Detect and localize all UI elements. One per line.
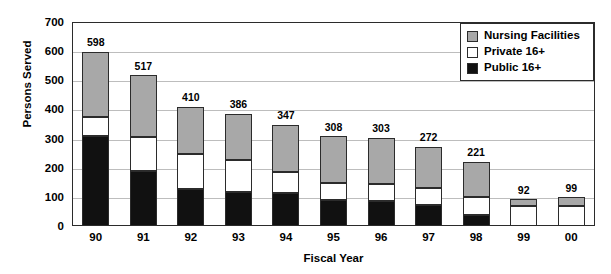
segment-nursing[interactable] — [272, 125, 299, 172]
x-tick-label: 94 — [280, 232, 293, 244]
y-tick-label: 700 — [8, 17, 64, 29]
legend-item[interactable]: Public 16+ — [467, 60, 588, 76]
bar-total-label: 410 — [182, 92, 200, 103]
legend-swatch-private-icon — [467, 47, 478, 58]
segment-public[interactable] — [463, 215, 490, 226]
segment-private[interactable] — [558, 206, 585, 226]
segment-public[interactable] — [368, 201, 395, 226]
bar-group[interactable]: 347 — [272, 22, 299, 226]
segment-private[interactable] — [368, 184, 395, 201]
segment-public[interactable] — [415, 205, 442, 226]
bar-group[interactable]: 303 — [368, 22, 395, 226]
segment-public[interactable] — [130, 171, 157, 226]
x-tick-label: 93 — [232, 232, 245, 244]
segment-nursing[interactable] — [177, 107, 204, 155]
segment-private[interactable] — [177, 154, 204, 189]
segment-nursing[interactable] — [320, 136, 347, 183]
y-tick-label: 400 — [8, 104, 64, 116]
y-tick-label: 600 — [8, 46, 64, 58]
bar-group[interactable]: 272 — [415, 22, 442, 226]
x-tick-label: 95 — [327, 232, 340, 244]
x-tick-label: 90 — [89, 232, 102, 244]
segment-private[interactable] — [272, 172, 299, 193]
segment-public[interactable] — [225, 192, 252, 226]
chart-legend: Nursing FacilitiesPrivate 16+Public 16+ — [460, 23, 594, 81]
bar-group[interactable]: 308 — [320, 22, 347, 226]
segment-private[interactable] — [463, 197, 490, 214]
legend-label: Nursing Facilities — [484, 30, 580, 42]
bar-group[interactable]: 410 — [177, 22, 204, 226]
x-tick-label: 97 — [422, 232, 435, 244]
segment-nursing[interactable] — [510, 199, 537, 205]
bar-total-label: 99 — [565, 183, 577, 194]
bar-total-label: 272 — [420, 132, 438, 143]
legend-label: Public 16+ — [484, 62, 541, 74]
legend-label: Private 16+ — [484, 46, 545, 58]
segment-private[interactable] — [82, 117, 109, 135]
legend-item[interactable]: Nursing Facilities — [467, 28, 588, 44]
segment-private[interactable] — [510, 206, 537, 226]
bar-total-label: 347 — [277, 110, 295, 121]
segment-private[interactable] — [320, 183, 347, 200]
legend-swatch-public-icon — [467, 63, 478, 74]
chart-title — [0, 0, 611, 1]
y-tick-label: 100 — [8, 192, 64, 204]
segment-public[interactable] — [177, 189, 204, 226]
y-tick-label: 500 — [8, 75, 64, 87]
bar-total-label: 386 — [230, 99, 248, 110]
x-tick-label: 00 — [565, 232, 578, 244]
bar-total-label: 92 — [518, 185, 530, 196]
bar-total-label: 598 — [87, 37, 105, 48]
y-tick-label: 300 — [8, 134, 64, 146]
bar-group[interactable]: 386 — [225, 22, 252, 226]
segment-private[interactable] — [225, 160, 252, 191]
x-tick-label: 96 — [375, 232, 388, 244]
segment-nursing[interactable] — [130, 75, 157, 136]
y-tick-label: 0 — [8, 221, 64, 233]
bar-group[interactable]: 598 — [82, 22, 109, 226]
segment-private[interactable] — [130, 137, 157, 171]
y-axis-title: Persons Served — [21, 9, 33, 159]
segment-nursing[interactable] — [415, 147, 442, 188]
x-tick-label: 98 — [470, 232, 483, 244]
segment-public[interactable] — [320, 200, 347, 226]
segment-private[interactable] — [415, 188, 442, 205]
segment-public[interactable] — [82, 136, 109, 226]
segment-public[interactable] — [272, 193, 299, 226]
bar-group[interactable]: 517 — [130, 22, 157, 226]
segment-nursing[interactable] — [225, 114, 252, 161]
bar-total-label: 517 — [135, 61, 153, 72]
segment-nursing[interactable] — [463, 162, 490, 198]
x-axis-tick-labels: 9091929394959697989900 — [72, 232, 595, 248]
segment-nursing[interactable] — [82, 52, 109, 118]
bar-total-label: 303 — [372, 123, 390, 134]
segment-nursing[interactable] — [368, 138, 395, 185]
legend-item[interactable]: Private 16+ — [467, 44, 588, 60]
x-axis-title: Fiscal Year — [72, 252, 595, 264]
x-tick-label: 91 — [137, 232, 150, 244]
legend-swatch-nursing-icon — [467, 31, 478, 42]
segment-nursing[interactable] — [558, 197, 585, 206]
stacked-bar-chart: Persons Served 7006005004003002001000 59… — [0, 0, 611, 274]
y-tick-label: 200 — [8, 163, 64, 175]
x-tick-label: 92 — [184, 232, 197, 244]
x-tick-label: 99 — [517, 232, 530, 244]
bar-total-label: 308 — [325, 122, 343, 133]
bar-total-label: 221 — [467, 147, 485, 158]
